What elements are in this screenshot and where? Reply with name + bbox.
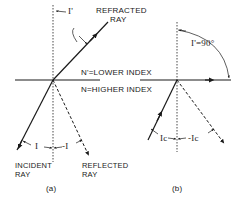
refraction-angle-label: I' <box>68 7 73 16</box>
higher-index-label: N=HIGHER INDEX <box>81 85 152 94</box>
incident-ray-a <box>17 80 53 150</box>
critical-angle-label: Ic <box>160 134 167 143</box>
refraction-angle-leader2-a <box>79 36 87 44</box>
incident-angle-leader-a <box>23 141 31 145</box>
incident-ray-arrow-a <box>19 140 22 147</box>
panel-b <box>140 22 231 152</box>
reflected-angle-label: -I <box>62 142 68 151</box>
reflected-ray-label-line2: RAY <box>82 170 97 179</box>
right-angle-label: I'=90° <box>191 39 215 48</box>
reflected-ray-label-line1: REFLECTED <box>82 161 128 170</box>
refraction-diagram <box>0 0 236 205</box>
lower-index-label: N'=LOWER INDEX <box>81 68 152 77</box>
reflected-critical-leader2-b <box>208 129 214 133</box>
right-angle-arc-start-b <box>179 30 186 31</box>
refracted-ray-label-line2: RAY <box>110 15 126 24</box>
panel-a <box>15 5 108 162</box>
refracted-ray-label-line1: REFRACTED <box>96 6 147 15</box>
incident-ray-label-line1: INCIDENT <box>15 161 52 170</box>
incident-ray-label-line2: RAY <box>15 170 30 179</box>
panel-b-caption: (b) <box>172 184 182 193</box>
incident-ray-b <box>148 80 177 140</box>
refracted-ray-arrow-a <box>90 35 96 41</box>
panel-a-caption: (a) <box>46 184 56 193</box>
refraction-angle-arc-a <box>73 28 77 42</box>
critical-angle-leader2-b <box>168 138 176 139</box>
reflected-angle-leader2-a <box>76 140 82 143</box>
reflected-critical-leader-b <box>178 138 186 139</box>
reflected-ray-b <box>177 80 223 142</box>
reflected-angle-leader-a <box>54 147 62 148</box>
incident-ray-arrow-b <box>157 113 161 121</box>
reflected-critical-angle-label: -Ic <box>188 134 199 143</box>
refraction-angle-leader-a <box>56 11 66 12</box>
incident-angle-leader2-a <box>44 147 52 148</box>
incident-angle-label: I <box>35 142 38 151</box>
